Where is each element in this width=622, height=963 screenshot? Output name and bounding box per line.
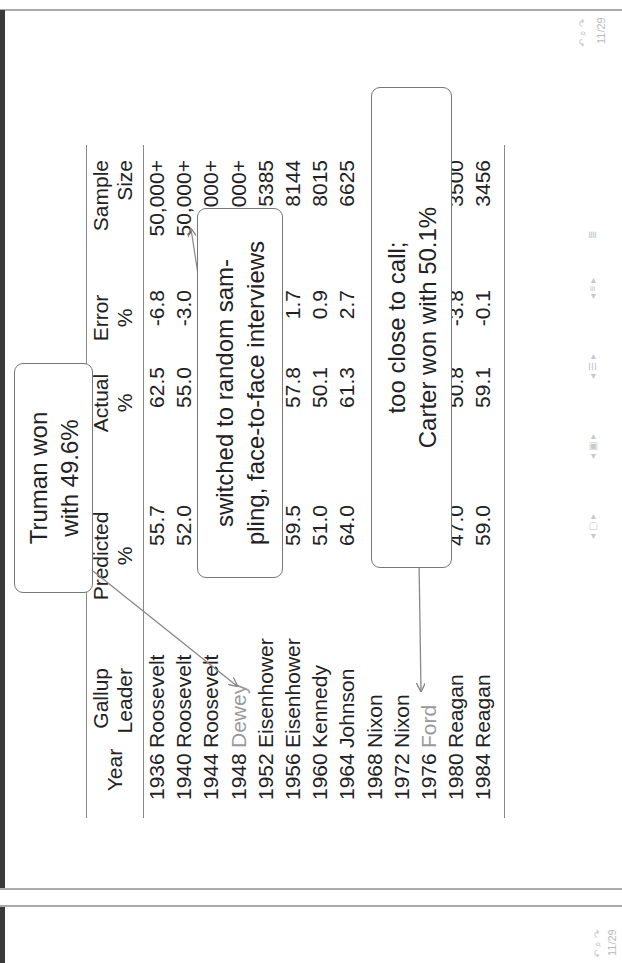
nav-subsection-icon[interactable]: ◂ ▣ ▸ (587, 434, 598, 459)
nav-frame-icon[interactable]: ◂ ▢ ▸ (587, 514, 598, 539)
nav-appendix-icon[interactable]: ≣ (587, 231, 598, 239)
callout-carter-line1: too close to call; (381, 241, 412, 413)
slide-gallup-polls: Year Gallup Leader Predicted % Actual % … (5, 10, 622, 889)
nav-search-back-forward-icon[interactable]: ↶ ⌕ ↷ (577, 19, 589, 47)
callout-truman: Truman won with 49.6% (14, 363, 93, 593)
page-indicator: 11/29 (595, 17, 607, 44)
nav-section-icon[interactable]: ◂ ☰ ▸ (587, 354, 598, 379)
next-page-indicator: 11/29 (606, 929, 618, 956)
callout-truman-line1: Truman won (23, 412, 54, 545)
next-slide-frame (0, 905, 622, 963)
callout-truman-line2: with 49.6% (54, 419, 85, 536)
nav-doc-icon[interactable]: ◂ ≡ ▸ (587, 278, 598, 299)
callout-sampling-line1: switched to random sam- (209, 259, 240, 527)
arrow-truman-to-dewey (93, 571, 237, 686)
next-frame-left-edge (0, 907, 5, 963)
callout-carter-line2: Carter won with 50.1% (412, 207, 443, 448)
next-nav-search-back-forward-icon[interactable]: ↶ ⌕ ↷ (592, 930, 604, 958)
next-slide-nav: ↶ ⌕ ↷ 11/29 (580, 912, 622, 962)
callout-carter: too close to call; Carter won with 50.1% (371, 87, 452, 568)
callout-sampling-line2: pling, face-to-face interviews (240, 241, 271, 545)
callout-arrows (5, 10, 622, 889)
callout-sampling: switched to random sam- pling, face-to-f… (197, 208, 283, 578)
